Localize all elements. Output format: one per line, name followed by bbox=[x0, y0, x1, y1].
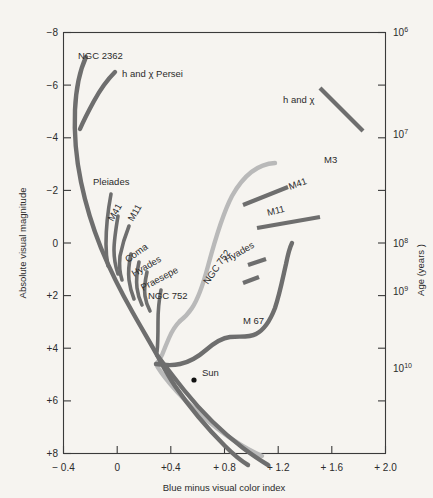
x-tick-label: 0 bbox=[114, 462, 120, 473]
label-ngc-752-turnoff: NGC 752 bbox=[148, 290, 188, 301]
x-tick-label: − 0.4 bbox=[52, 462, 75, 473]
y-axis-title: Absolute visual magnitude bbox=[17, 188, 28, 299]
y-tick-label: 0 bbox=[52, 238, 58, 249]
label-h-chi-supergiant: h and χ bbox=[283, 94, 314, 105]
label-pleiades: Pleiades bbox=[93, 176, 130, 187]
label-m3: M3 bbox=[324, 154, 337, 165]
y-tick-label: +6 bbox=[47, 395, 59, 406]
y-tick-label: −4 bbox=[47, 132, 59, 143]
sun-marker-dot bbox=[191, 377, 196, 382]
x-axis-title: Blue minus visual color index bbox=[163, 482, 286, 493]
label-sun: Sun bbox=[202, 367, 219, 378]
y-tick-label: +4 bbox=[47, 343, 59, 354]
label-ngc-2362: NGC 2362 bbox=[78, 50, 123, 61]
y-tick-label: −6 bbox=[47, 80, 59, 91]
x-tick-label: + 1.2 bbox=[267, 462, 290, 473]
x-tick-label: + 2.0 bbox=[374, 462, 397, 473]
x-tick-label: +0.4 bbox=[161, 462, 181, 473]
y2-axis-title: Age (years ) bbox=[415, 244, 426, 296]
hr-diagram-figure: −8 −6 −4 −2 0 +2 +4 +6 +8 − 0.4 0 +0.4 +… bbox=[0, 0, 433, 498]
x-tick-label: + 0.8 bbox=[213, 462, 236, 473]
label-m67: M 67 bbox=[243, 315, 264, 326]
y-tick-label: +2 bbox=[47, 290, 59, 301]
y-tick-label: −2 bbox=[47, 185, 59, 196]
x-tick-label: + 1.6 bbox=[321, 462, 344, 473]
y-tick-label: −8 bbox=[47, 27, 59, 38]
y-tick-label: +8 bbox=[47, 448, 59, 459]
label-h-chi-persei: h and χ Persei bbox=[122, 68, 183, 79]
